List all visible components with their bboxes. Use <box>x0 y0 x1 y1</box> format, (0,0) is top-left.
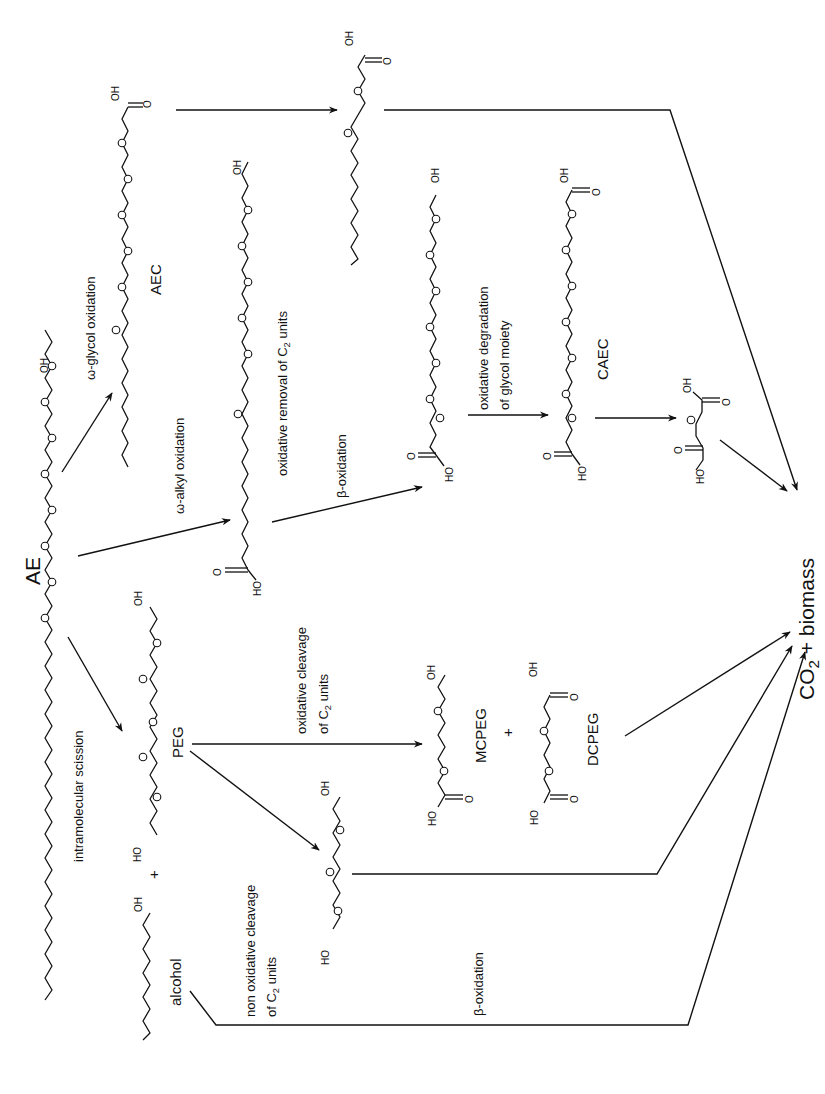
compound-label-aec: AEC <box>148 264 163 295</box>
atom-o: O <box>383 57 393 65</box>
atom-oh: OH <box>111 86 121 101</box>
reaction-label-oxidative-cleavage-line2: of C2 units <box>317 674 333 734</box>
atom-oh: OH <box>560 168 570 183</box>
oxygen-atom <box>124 247 132 255</box>
oxygen-atom <box>426 251 434 259</box>
mcpeg-structure <box>434 675 463 807</box>
atom-ho: HO <box>578 466 588 481</box>
oxygen-atom <box>344 129 352 137</box>
oxygen-atom <box>687 416 695 424</box>
reaction-label-oxidative-cleavage-line1: oxidative cleavage <box>295 627 308 734</box>
oxygen-atom <box>139 753 147 761</box>
ae-structure <box>41 330 56 1000</box>
reaction-label-beta-oxidation-alcohol: β-oxidation <box>472 952 485 1016</box>
atom-o: O <box>143 100 153 108</box>
oxygen-atom <box>244 350 252 358</box>
oxygen-atom <box>124 175 132 183</box>
arrow-diglycolic-to-co2 <box>720 440 787 491</box>
atom-ho: HO <box>530 810 540 825</box>
atom-ho: HO <box>253 581 263 596</box>
arrow-intramolecular-scission <box>68 637 122 731</box>
oxygen-atom <box>568 354 576 362</box>
oxygen-atom <box>540 727 548 735</box>
atom-oh: OH <box>134 591 144 606</box>
oxygen-atom <box>238 314 246 322</box>
oxygen-atom <box>118 211 126 219</box>
omega-alkyl-product-structure <box>225 162 256 580</box>
atom-o: O <box>592 188 602 196</box>
oxygen-atom <box>436 414 444 422</box>
caec-structure <box>554 188 590 465</box>
atom-oh: OH <box>233 160 243 175</box>
atom-oh: OH <box>345 31 355 46</box>
atom-oh: OH <box>427 665 437 680</box>
atom-ho: HO <box>321 950 331 965</box>
alcohol-structure <box>143 913 150 1040</box>
atom-o: O <box>570 795 580 803</box>
reaction-label-omega-alkyl: ω-alkyl oxidation <box>173 418 186 514</box>
reaction-label-omega-glycol: ω-glycol oxidation <box>84 277 97 380</box>
oxygen-atom <box>112 326 120 334</box>
atom-oh: OH <box>134 897 144 912</box>
oxygen-atom <box>562 246 570 254</box>
oxygen-atom <box>432 287 440 295</box>
oxygen-atom <box>568 282 576 290</box>
oxygen-atom <box>139 675 147 683</box>
oxygen-atom <box>41 470 49 478</box>
reaction-label-oxidative-degradation-line2: of glycol moiety <box>498 320 511 410</box>
oxygen-atom <box>434 707 442 715</box>
atom-ho: HO <box>696 469 706 484</box>
atom-o: O <box>465 795 475 803</box>
dcpeg-structure <box>540 693 568 803</box>
oxygen-atom <box>41 542 49 550</box>
oxygen-atom <box>432 215 440 223</box>
oxygen-atom <box>568 210 576 218</box>
short-chain-aec-structure <box>344 55 382 265</box>
reaction-label-non-oxidative-line1: non oxidative cleavage <box>244 885 257 1017</box>
atom-oh: OH <box>529 662 539 677</box>
end-product-label: CO2 + biomass <box>796 558 821 700</box>
oxygen-atom <box>354 87 362 95</box>
oxygen-atom <box>153 639 161 647</box>
short-peg-structure <box>326 797 344 929</box>
arrow-alcohol-to-co2 <box>190 652 805 1025</box>
oxygen-atom <box>41 398 49 406</box>
reaction-label-oxidative-removal: oxidative removal of C2 units <box>276 311 292 476</box>
reaction-label-non-oxidative-line2: of C2 units <box>265 957 281 1017</box>
plus-sign: + <box>500 728 515 737</box>
oxygen-atom <box>568 414 576 422</box>
atom-o: O <box>570 693 580 701</box>
oxygen-atom <box>426 323 434 331</box>
arrow-dcpeg-to-co2 <box>625 632 790 736</box>
oxygen-atom <box>238 242 246 250</box>
oxygen-atom <box>336 826 344 834</box>
oxygen-atom <box>118 139 126 147</box>
atom-oh: OH <box>683 378 693 393</box>
atom-oh: OH <box>321 781 331 796</box>
compound-label-dcpeg: DCPEG <box>585 713 600 766</box>
reaction-label-beta-oxidation: β-oxidation <box>335 434 348 498</box>
oxygen-atom <box>426 395 434 403</box>
oxygen-atom <box>118 283 126 291</box>
oxygen-atom <box>545 767 553 775</box>
atom-oh: OH <box>431 168 441 183</box>
reaction-label-oxidative-degradation-line1: oxidative degradation <box>477 286 490 410</box>
atom-ho: HO <box>428 811 438 826</box>
oxygen-atom <box>334 907 342 915</box>
aec-structure <box>112 103 143 467</box>
atom-ho: HO <box>445 467 455 482</box>
reaction-label-intramolecular-scission: intramolecular scission <box>72 731 85 863</box>
arrow-short-to-co2 <box>384 110 797 490</box>
oxygen-atom <box>149 718 157 726</box>
plus-sign: + <box>146 870 161 879</box>
oxygen-atom <box>326 868 334 876</box>
atom-o: O <box>213 568 223 576</box>
arrow-short-peg-to-co2 <box>352 646 792 874</box>
arrow-omega-alkyl <box>78 520 230 556</box>
oxygen-atom <box>244 206 252 214</box>
oxygen-atom <box>48 506 56 514</box>
arrow-non-oxidative-cleavage <box>190 751 319 850</box>
atom-o: O <box>543 452 553 460</box>
peg-structure <box>139 607 161 835</box>
atom-oh: OH <box>40 358 50 373</box>
